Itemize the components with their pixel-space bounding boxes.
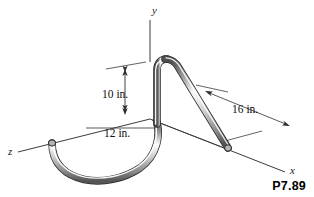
- rod-end-cap-z: [48, 140, 55, 146]
- y-axis-label: y: [151, 4, 157, 16]
- height-dimension-group: 10 in.: [102, 62, 146, 115]
- z-axis-label: z: [7, 145, 13, 157]
- figure-id-label: P7.89: [272, 179, 306, 193]
- diagonal-dimension-label: 16 in.: [232, 103, 258, 115]
- bent-rod: [48, 58, 231, 181]
- rod-vertical-body: [157, 59, 167, 124]
- radius-dimension-group: 12 in.: [86, 127, 160, 139]
- x-axis-label: x: [289, 164, 295, 176]
- diag-ext-lower: [225, 131, 262, 141]
- rod-diagonal-segment: [165, 58, 229, 148]
- height-dimension-label: 10 in.: [102, 88, 128, 100]
- figure-container: y z x 10 in. 12 in.: [0, 0, 314, 197]
- rod-diagram: y z x 10 in. 12 in.: [0, 0, 314, 197]
- radius-dimension-label: 12 in.: [104, 127, 130, 139]
- height-ext-top: [106, 62, 146, 69]
- diag-ext-upper: [196, 85, 228, 92]
- rod-vertical-segment: [156, 59, 167, 124]
- rod-end-cap-x: [225, 145, 232, 151]
